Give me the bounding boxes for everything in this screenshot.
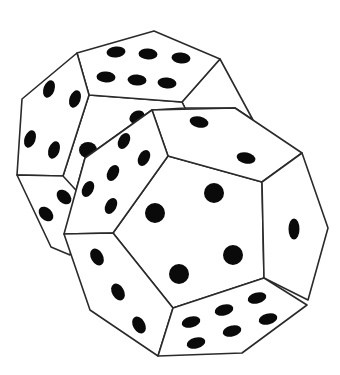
dice-illustration: Two dodecahedral dice bbox=[0, 0, 340, 375]
front-die-right-pips bbox=[289, 219, 300, 240]
front-die bbox=[64, 108, 328, 356]
